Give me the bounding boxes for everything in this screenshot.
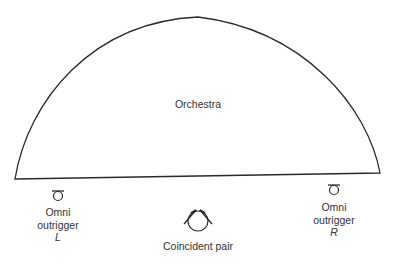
omni-mic-right-icon [328,185,340,195]
omni-left-line-2: outrigger [30,219,86,232]
omni-left-line-3: L [30,231,86,244]
coincident-pair-label: Coincident pair [153,240,243,253]
omni-mic-left-icon [52,191,64,201]
omni-left-line-1: Omni [30,206,86,219]
omni-left-label: Omni outrigger L [30,206,86,244]
orchestra-label: Orchestra [168,98,228,111]
omni-right-line-3: R [306,226,362,239]
omni-right-line-2: outrigger [306,214,362,227]
coincident-pair-icon [184,210,212,231]
omni-right-line-1: Omni [306,201,362,214]
omni-right-label: Omni outrigger R [306,201,362,239]
